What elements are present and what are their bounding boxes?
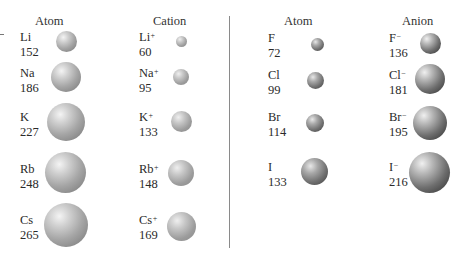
sphere-icon [173,69,189,85]
sphere-icon [301,158,328,185]
ion-charge: − [396,32,401,41]
atom-symbol: Cs [20,213,33,227]
sphere-icon [176,36,187,47]
ion-charge: − [394,161,399,170]
ion-symbol: Rb [139,162,154,176]
sphere-icon [311,38,324,51]
atom-radius: 265 [20,228,39,242]
atom-symbol: Cl [268,68,280,82]
sphere-icon [307,72,324,89]
atom-symbol: F [268,31,275,45]
atom-radius: 227 [20,125,39,139]
header-alkali-atom: Atom [35,14,63,29]
sphere-icon [306,114,324,132]
sphere-icon [415,64,445,94]
ion-charge: + [153,214,158,223]
sphere-icon [409,152,450,193]
sphere-icon [51,62,81,92]
ion-symbol: K [139,110,148,124]
column-divider [229,16,230,248]
header-cation: Cation [153,14,186,29]
atom-radius: 186 [20,81,39,95]
atom-radius: 133 [268,175,287,189]
ion-radius: 148 [139,177,158,191]
ion-symbol: Br [389,110,402,124]
sphere-icon [168,160,194,186]
ion-symbol: Cl [389,68,401,82]
atom-radius: 72 [268,46,281,60]
ion-symbol: Li [139,30,150,44]
atom-symbol: Na [20,66,35,80]
atom-symbol: I [268,160,272,174]
ion-radius: 181 [389,83,408,97]
ion-charge: − [402,111,407,120]
ion-radius: 133 [139,125,158,139]
ion-symbol: Cs [139,213,152,227]
sphere-icon [44,203,88,247]
header-anion: Anion [402,14,433,29]
ion-charge: + [154,163,159,172]
atom-radius: 152 [20,45,39,59]
ion-radius: 60 [139,45,152,59]
ion-charge: + [149,111,154,120]
atom-symbol: Li [20,30,31,44]
sphere-icon [171,111,192,132]
sphere-icon [413,106,447,140]
atom-radius: 248 [20,177,39,191]
ion-radius: 136 [389,46,408,60]
ion-symbol: I [389,160,393,174]
ion-charge: + [151,31,156,40]
ion-charge: − [401,69,406,78]
margin-tick-mark [0,34,4,35]
ion-radius: 95 [139,81,152,95]
atom-radius: 114 [268,125,286,139]
sphere-icon [45,152,86,193]
ion-symbol: F [389,31,396,45]
ion-radius: 195 [389,125,408,139]
ion-symbol: Na [139,66,154,80]
ion-radius: 216 [389,175,408,189]
sphere-icon [56,31,77,52]
atom-radius: 99 [268,83,281,97]
atom-symbol: Rb [20,162,35,176]
header-halogen-atom: Atom [284,14,312,29]
atom-symbol: Br [268,110,281,124]
ion-radius: 169 [139,228,158,242]
ion-charge: + [154,67,159,76]
sphere-icon [420,33,441,54]
sphere-icon [47,103,85,141]
sphere-icon [167,212,196,241]
atom-symbol: K [20,110,29,124]
